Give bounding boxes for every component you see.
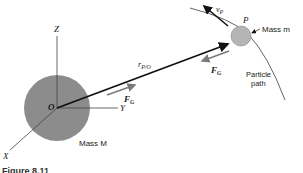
z-axis-label: Z <box>54 24 60 34</box>
force-on-M-arrow <box>107 85 135 95</box>
diagram-canvas: Z Y X O Mass M P Mass m rP/O vP FG FG Pa… <box>0 0 303 173</box>
velocity-label: vP <box>216 5 224 15</box>
particle-path-curve <box>190 8 285 100</box>
position-vector-arrow <box>57 44 228 108</box>
particle-P-label: P <box>242 15 249 25</box>
y-axis-label: Y <box>120 103 126 113</box>
particle-path-label-line1: Particle <box>246 70 271 79</box>
x-axis-label: X <box>2 151 9 161</box>
origin-label: O <box>48 102 55 112</box>
position-vector-label: rP/O <box>138 60 151 70</box>
two-body-diagram: Z Y X O Mass M P Mass m rP/O vP FG FG Pa… <box>0 0 303 173</box>
mass-m-label: Mass m <box>262 25 290 34</box>
mass-m-pointer <box>252 29 260 33</box>
mass-M-label: Mass M <box>79 139 107 148</box>
mass-m-sphere <box>231 26 251 46</box>
particle-path-label-line2: path <box>251 79 266 88</box>
figure-caption: Figure 8.11 <box>2 166 49 173</box>
force-on-M-label: FG <box>123 94 135 105</box>
force-on-m-label: FG <box>210 65 222 76</box>
